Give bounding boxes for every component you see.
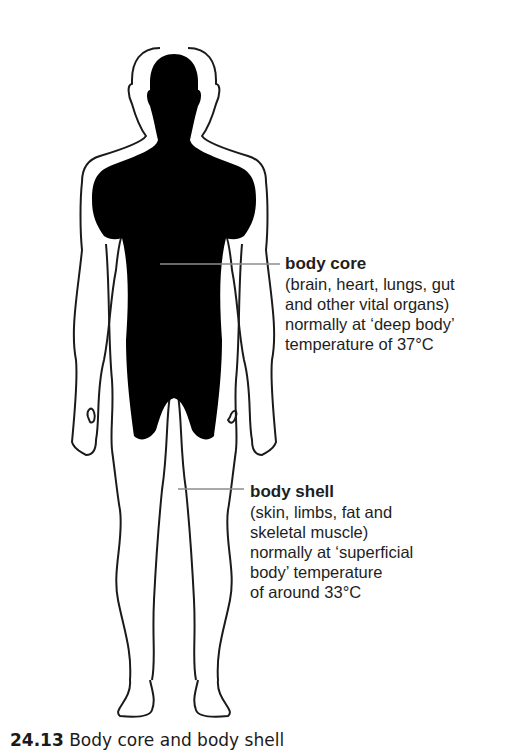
figure-number: 24.13 — [10, 730, 64, 750]
body-shell-title: body shell — [250, 482, 413, 502]
body-core-desc-line-1: (brain, heart, lungs, gut — [285, 274, 455, 294]
body-core-desc-line-3: normally at ‘deep body’ — [285, 314, 455, 334]
figure-caption-text: Body core and body shell — [69, 730, 284, 750]
body-core-desc-line-4: temperature of 37°C — [285, 334, 455, 354]
body-shell-desc-line-3: normally at ‘superficial — [250, 542, 413, 562]
body-shell-label: body shell (skin, limbs, fat and skeleta… — [250, 482, 413, 602]
body-core-title: body core — [285, 254, 455, 274]
body-core-desc-line-2: and other vital organs) — [285, 294, 455, 314]
body-core-label: body core (brain, heart, lungs, gut and … — [285, 254, 455, 354]
figure-caption: 24.13 Body core and body shell — [10, 730, 284, 750]
body-shell-desc-line-5: of around 33°C — [250, 582, 413, 602]
body-shell-desc-line-1: (skin, limbs, fat and — [250, 502, 413, 522]
body-core-region — [92, 54, 256, 439]
body-shell-desc-line-4: body’ temperature — [250, 562, 413, 582]
body-shell-desc-line-2: skeletal muscle) — [250, 522, 413, 542]
